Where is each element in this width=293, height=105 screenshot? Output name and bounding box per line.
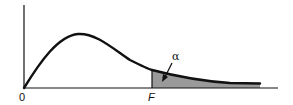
- f-distribution-diagram: α 0 F: [0, 0, 293, 105]
- critical-value-label: F: [148, 91, 156, 103]
- origin-label: 0: [19, 91, 25, 103]
- density-curve: [24, 34, 260, 88]
- alpha-label: α: [172, 50, 180, 63]
